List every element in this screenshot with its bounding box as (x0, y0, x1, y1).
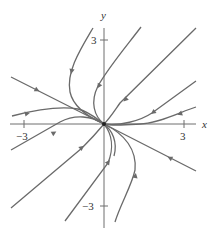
trajectory-upper-right-line-2 (104, 81, 196, 124)
arrow-icon (69, 69, 75, 75)
y-axis-label: y (100, 9, 106, 21)
arrow-icon (105, 158, 112, 165)
trajectory-upper-right-line-1 (104, 28, 196, 124)
arrow-icon (34, 87, 41, 94)
phase-portrait: x y −3 3 3 −3 (0, 0, 218, 232)
trajectory-right-curve (104, 107, 196, 125)
x-tick-label-3: 3 (180, 130, 186, 142)
x-axis-label: x (201, 118, 207, 130)
trajectory-upper-curve (94, 27, 141, 124)
arrow-icon (166, 154, 173, 161)
x-tick-label-neg3: −3 (16, 130, 28, 142)
y-tick-label-3: 3 (91, 34, 97, 46)
trajectory-lower-right-curve (104, 124, 135, 222)
arrow-icon (51, 129, 58, 136)
critical-point (102, 122, 106, 126)
y-tick-label-neg3: −3 (82, 200, 94, 212)
